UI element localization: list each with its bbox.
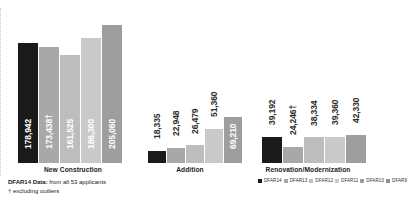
bar-value-label: 205,060	[108, 118, 117, 148]
bar-value-label: 38,334	[310, 100, 319, 125]
bar-set: 39,19224,246†38,33439,36042,330	[262, 0, 366, 163]
bar-value-label: 42,330	[352, 98, 361, 123]
bar-value-label: 173,438†	[45, 114, 54, 149]
bar[interactable]: 161,525	[60, 55, 80, 163]
legend-label: DFAR10	[366, 178, 384, 183]
bar[interactable]: 26,479	[186, 145, 204, 163]
bar[interactable]: 18,335	[148, 151, 166, 163]
legend-swatch-icon	[360, 179, 364, 183]
legend-swatch-icon	[386, 179, 390, 183]
legend-label: DFAR11	[341, 178, 358, 183]
bar[interactable]: 51,360	[205, 129, 223, 163]
legend-swatch-icon	[335, 179, 339, 183]
legend-item[interactable]: DFAR11	[335, 177, 358, 184]
bar[interactable]: 24,246†	[283, 147, 303, 163]
bar[interactable]: 186,300	[81, 38, 101, 163]
legend-item[interactable]: DFAR10	[360, 177, 384, 184]
bar[interactable]: 69,210	[224, 117, 242, 163]
bar[interactable]: 205,060	[102, 25, 122, 163]
bar-value-label: 51,360	[210, 92, 219, 117]
bar-value-label: 24,246†	[289, 105, 298, 135]
legend-label: DFAR12	[315, 178, 333, 183]
footnote-bold-label: DFAR14 Data:	[8, 179, 48, 185]
bar-value-label: 39,360	[331, 100, 340, 125]
group-divider	[0, 8, 1, 176]
legend-item[interactable]: DFAR13	[284, 177, 308, 184]
bar-value-label: 18,335	[153, 114, 162, 139]
bar[interactable]: 178,942	[18, 43, 38, 163]
bar-value-label: 178,942	[24, 118, 33, 148]
bar-value-label: 39,192	[268, 100, 277, 125]
footnote-rest-label: from all 53 applicants	[48, 179, 106, 185]
legend-item[interactable]: DFAR9	[386, 177, 407, 184]
bar[interactable]: 173,438†	[39, 47, 59, 163]
bar[interactable]: 22,948	[167, 148, 185, 163]
legend-label: DFAR9	[392, 178, 407, 183]
legend-label: DFAR14	[264, 178, 282, 183]
bar-set: 18,33522,94826,47951,36069,210	[148, 0, 242, 163]
bar[interactable]: 39,192	[262, 137, 282, 163]
bar-value-label: 26,479	[191, 108, 200, 133]
chart-footnote: DFAR14 Data: from all 53 applicants † ex…	[8, 178, 106, 196]
plot-area: 178,942173,438†161,525186,300205,06018,3…	[0, 0, 373, 163]
bar[interactable]: 38,334	[304, 137, 324, 163]
legend-swatch-icon	[258, 179, 262, 183]
bar-value-label: 69,210	[229, 123, 238, 148]
chart-legend: DFAR14DFAR13DFAR12DFAR11DFAR10DFAR9	[258, 177, 370, 184]
bar-value-label: 22,948	[172, 111, 181, 136]
category-label: Addition	[140, 166, 240, 173]
legend-swatch-icon	[284, 179, 288, 183]
category-label: New Construction	[8, 166, 138, 173]
legend-item[interactable]: DFAR12	[309, 177, 333, 184]
bar[interactable]: 39,360	[325, 137, 345, 163]
footnote-line-2: † excluding outliers	[8, 187, 106, 196]
legend-swatch-icon	[309, 179, 313, 183]
footnote-line-1: DFAR14 Data: from all 53 applicants	[8, 178, 106, 187]
legend-label: DFAR13	[290, 178, 308, 183]
bar-value-label: 186,300	[87, 118, 96, 148]
legend-item[interactable]: DFAR14	[258, 177, 282, 184]
bar[interactable]: 42,330	[346, 135, 366, 163]
category-label: Renovation/Modernization	[248, 166, 368, 173]
bar-set: 178,942173,438†161,525186,300205,060	[18, 0, 122, 163]
bar-value-label: 161,525	[66, 118, 75, 148]
